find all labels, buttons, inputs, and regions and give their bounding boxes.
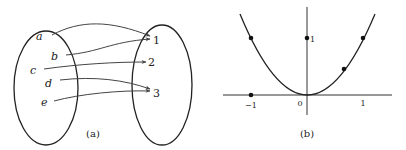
x-tick-1: 1: [360, 99, 365, 108]
element-2: 2: [148, 56, 155, 69]
point-neg1-1: [249, 36, 254, 41]
point-0-1: [305, 36, 310, 41]
arrow-c-to-2: [44, 62, 146, 69]
caption-a: (a): [86, 128, 100, 139]
point-0.7-0.49: [342, 67, 347, 72]
caption-b: (b): [300, 128, 314, 139]
element-e: e: [41, 96, 48, 109]
element-c: c: [30, 64, 36, 77]
figure-canvas: a b c d e 1 2 3 (a) 1 −1 0 1 (b): [0, 0, 406, 150]
element-1: 1: [153, 34, 160, 47]
element-3: 3: [153, 87, 160, 100]
y-tick-1: 1: [310, 35, 315, 44]
element-b: b: [51, 50, 58, 63]
x-tick-0: 0: [297, 99, 302, 108]
point-1-1: [361, 36, 366, 41]
parabola-plot: 1 −1 0 1 (b): [223, 7, 392, 139]
arrow-a-to-1: [52, 24, 150, 36]
point-neg1-0: [249, 93, 254, 98]
arrow-d-to-3: [60, 78, 150, 89]
codomain-set-ellipse: [132, 25, 192, 145]
arrow-e-to-3: [54, 91, 150, 101]
x-tick-neg1: −1: [245, 101, 257, 110]
element-a: a: [36, 30, 43, 43]
element-d: d: [45, 77, 52, 90]
arrow-b-to-1: [66, 39, 150, 55]
mapping-diagram: a b c d e 1 2 3 (a): [14, 24, 192, 145]
